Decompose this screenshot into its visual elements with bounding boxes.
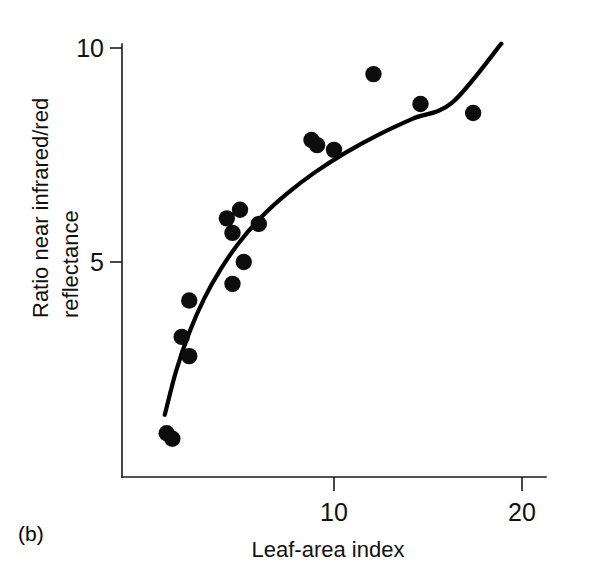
data-point bbox=[236, 254, 252, 270]
data-point bbox=[232, 202, 248, 218]
axes-group bbox=[122, 44, 546, 477]
y-tick-marks bbox=[110, 48, 122, 262]
data-point bbox=[181, 348, 197, 364]
data-point bbox=[174, 329, 190, 345]
data-point bbox=[309, 137, 325, 153]
data-point bbox=[251, 216, 267, 232]
data-points-group bbox=[158, 66, 481, 447]
data-point bbox=[164, 431, 180, 447]
data-point bbox=[326, 142, 342, 158]
data-point bbox=[365, 66, 381, 82]
trend-curve bbox=[165, 44, 502, 415]
data-point bbox=[465, 105, 481, 121]
scatter-chart: 10 5 10 20 Ratio near infrared/red refle… bbox=[0, 0, 608, 576]
data-point bbox=[412, 96, 428, 112]
y-axis-title: Ratio near infrared/red reflectance bbox=[28, 98, 83, 318]
y-tick-label-10: 10 bbox=[76, 34, 104, 62]
data-point bbox=[181, 292, 197, 308]
y-tick-label-5: 5 bbox=[90, 248, 104, 276]
data-point bbox=[224, 225, 240, 241]
x-tick-label-10: 10 bbox=[320, 498, 348, 526]
y-axis-title-line-1: Ratio near infrared/red bbox=[28, 98, 53, 318]
data-point bbox=[224, 276, 240, 292]
x-tick-label-20: 20 bbox=[508, 498, 536, 526]
panel-label: (b) bbox=[18, 522, 44, 546]
x-tick-marks bbox=[334, 477, 522, 491]
y-axis-title-line-2: reflectance bbox=[58, 210, 83, 318]
figure-panel: 10 5 10 20 Ratio near infrared/red refle… bbox=[0, 0, 608, 576]
x-axis-title: Leaf-area index bbox=[252, 537, 405, 562]
